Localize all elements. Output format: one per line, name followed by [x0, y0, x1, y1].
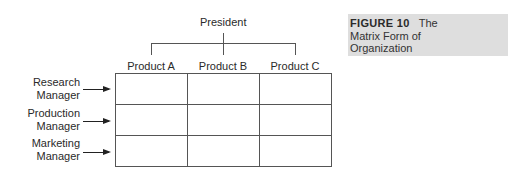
grid-line-col1 — [187, 73, 188, 167]
grid-line-col2 — [259, 73, 260, 167]
row-label-line1: Research — [0, 76, 80, 89]
row-label-research-manager: Research Manager — [0, 76, 80, 102]
figure-number: FIGURE 10 — [350, 17, 410, 29]
president-node: President — [200, 16, 246, 29]
column-header-product-c: Product C — [259, 60, 331, 73]
arrow-right-icon — [83, 89, 109, 90]
caption-title-part1: The — [419, 17, 438, 29]
president-stem-line — [223, 33, 224, 43]
row-label-line2: Manager — [0, 120, 80, 133]
caption-line2: Matrix Form of — [350, 30, 508, 43]
row-label-production-manager: Production Manager — [0, 107, 80, 133]
figure-caption: FIGURE 10 The Matrix Form of Organizatio… — [348, 14, 508, 56]
grid-line-row1 — [115, 104, 332, 105]
bracket-drop-a — [151, 43, 152, 55]
column-header-product-b: Product B — [187, 60, 259, 73]
arrow-right-icon — [83, 121, 109, 122]
row-label-line1: Marketing — [0, 137, 80, 150]
caption-line1: FIGURE 10 The — [350, 17, 508, 30]
grid-line-bottom — [115, 166, 332, 167]
row-label-marketing-manager: Marketing Manager — [0, 137, 80, 163]
row-label-line1: Production — [0, 107, 80, 120]
row-label-line2: Manager — [0, 89, 80, 102]
grid-line-top — [115, 73, 332, 74]
bracket-drop-b — [223, 43, 224, 55]
caption-line3: Organization — [350, 42, 508, 55]
matrix-grid — [115, 73, 332, 167]
arrow-right-icon — [83, 152, 109, 153]
bracket-drop-c — [295, 43, 296, 55]
column-header-product-a: Product A — [115, 60, 187, 73]
grid-line-right — [331, 73, 332, 167]
row-label-line2: Manager — [0, 150, 80, 163]
grid-line-row2 — [115, 135, 332, 136]
grid-line-left — [115, 73, 116, 167]
